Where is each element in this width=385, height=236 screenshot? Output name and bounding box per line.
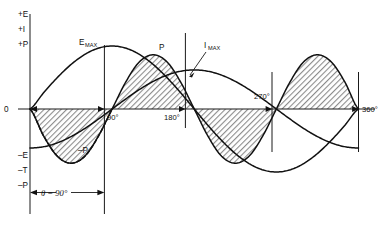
label-positive-e: +E: [18, 10, 29, 19]
label-positive-p: +P: [18, 40, 29, 49]
i-max-leader-line: [190, 52, 206, 75]
label-i-max-subscript: MAX: [208, 45, 220, 51]
tick-label-360: 360°: [362, 105, 378, 114]
label-i-max: I: [204, 41, 206, 50]
label-positive-i: +I: [18, 25, 25, 34]
waveform-chart-svg: +E +I +P –E –T –P 0 90° 180° 270° 360° E…: [0, 0, 385, 236]
i-max-arrowhead: [189, 73, 194, 78]
theta-arrow-left: [30, 190, 37, 195]
label-e-max-subscript: MAX: [85, 42, 97, 48]
waveform-figure: +E +I +P –E –T –P 0 90° 180° 270° 360° E…: [0, 0, 385, 236]
tick-label-270: 270°: [254, 92, 270, 101]
e-max-annotation: E MAX: [79, 38, 97, 48]
label-origin: 0: [4, 105, 9, 114]
tick-label-180: 180°: [164, 113, 180, 122]
i-max-annotation: I MAX: [189, 41, 220, 78]
label-negative-t: –T: [18, 166, 28, 175]
label-theta: θ = 90°: [41, 188, 68, 198]
label-power-positive: P: [159, 43, 165, 52]
label-negative-e: –E: [18, 151, 29, 160]
label-power-negative: –P: [78, 146, 89, 155]
tick-label-90: 90°: [107, 113, 118, 122]
theta-dimension: θ = 90°: [30, 188, 104, 198]
label-negative-p: –P: [18, 181, 29, 190]
theta-arrow-right: [97, 190, 104, 195]
